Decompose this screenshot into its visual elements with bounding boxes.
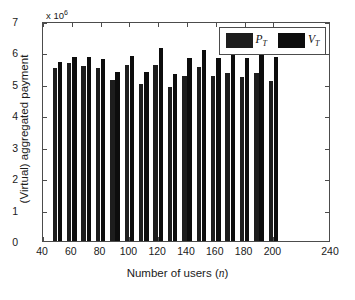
legend-entry-vt: VT <box>278 33 319 48</box>
bar-vt-n130 <box>173 74 177 242</box>
legend-label-vt: VT <box>308 33 319 48</box>
legend-entry-pt: PT <box>226 33 267 48</box>
y-axis-tick-mark <box>325 212 329 213</box>
bar-pt-n60 <box>67 63 71 241</box>
bar-pt-n160 <box>211 76 215 241</box>
x-axis-title-variable: n <box>219 267 225 279</box>
bar-vt-n80 <box>101 59 105 241</box>
x-axis-tick-mark <box>43 237 44 241</box>
bar-vt-n150 <box>202 50 206 241</box>
legend: PT VT <box>219 27 326 55</box>
y-axis-title: (Virtual) aggregated payment <box>18 19 30 239</box>
x-axis-title: Number of users (n) <box>0 267 355 279</box>
legend-label-vt-base: V <box>308 33 315 45</box>
legend-label-pt: PT <box>256 33 267 48</box>
y-axis-tick-label: 1 <box>12 206 18 217</box>
y-axis-tick-mark <box>43 212 47 213</box>
x-axis-title-text: Number of users <box>127 267 212 279</box>
y-axis-tick-mark <box>325 23 329 24</box>
y-axis-tick-label: 4 <box>12 111 18 122</box>
bar-vt-n100 <box>130 56 134 241</box>
y-axis-tick-label: 2 <box>12 174 18 185</box>
bar-vt-n50 <box>58 62 62 241</box>
bar-vt-n110 <box>144 72 148 241</box>
x-axis-tick-mark <box>72 23 73 27</box>
x-axis-tick-label: 200 <box>255 246 289 257</box>
bar-vt-n200 <box>274 57 278 241</box>
y-axis-tick-label: 3 <box>12 143 18 154</box>
bar-pt-n80 <box>96 68 100 241</box>
y-axis-tick-mark <box>325 180 329 181</box>
x-axis-tick-mark <box>101 23 102 27</box>
legend-label-pt-sub: T <box>263 40 267 49</box>
y-axis-tick-mark <box>43 180 47 181</box>
bar-vt-n120 <box>159 48 163 241</box>
bar-pt-n180 <box>240 77 244 241</box>
y-axis-tick-mark <box>325 149 329 150</box>
bar-pt-n190 <box>254 73 258 241</box>
bar-pt-n200 <box>269 81 273 241</box>
y-axis-tick-mark <box>325 86 329 87</box>
bar-pt-n170 <box>225 73 229 241</box>
legend-swatch-vt-icon <box>278 33 305 48</box>
bar-vt-n160 <box>216 58 220 241</box>
x-axis-tick-label: 240 <box>313 246 347 257</box>
y-axis-tick-mark <box>43 149 47 150</box>
bar-vt-n140 <box>187 58 191 241</box>
y-axis-tick-mark <box>43 86 47 87</box>
bar-vt-n70 <box>87 57 91 241</box>
plot-area <box>42 22 330 242</box>
legend-label-vt-sub: T <box>315 40 319 49</box>
legend-label-pt-base: P <box>256 33 263 45</box>
bar-pt-n110 <box>139 84 143 241</box>
bar-pt-n150 <box>197 67 201 241</box>
legend-swatch-pt-icon <box>226 33 253 48</box>
y-axis-exponent-base: x 10 <box>46 10 64 21</box>
bar-vt-n180 <box>245 58 249 241</box>
bar-vt-n90 <box>115 72 119 241</box>
x-axis-tick-mark <box>158 23 159 27</box>
y-axis-tick-label: 6 <box>12 48 18 59</box>
y-axis-tick-label: 7 <box>12 17 18 28</box>
bar-pt-n140 <box>182 76 186 241</box>
x-axis-tick-mark <box>216 23 217 27</box>
bar-vt-n190 <box>259 52 263 241</box>
bar-pt-n130 <box>168 87 172 241</box>
bar-pt-n50 <box>53 68 57 241</box>
x-axis-tick-mark <box>129 23 130 27</box>
y-axis-exponent-power: 6 <box>64 9 68 16</box>
bar-pt-n90 <box>110 80 114 241</box>
x-axis-tick-mark <box>187 23 188 27</box>
bar-pt-n100 <box>125 65 129 241</box>
x-axis-tick-mark <box>43 23 44 27</box>
y-axis-tick-label: 0 <box>12 237 18 248</box>
bar-pt-n70 <box>81 66 85 241</box>
y-axis-tick-label: 5 <box>12 80 18 91</box>
y-axis-exponent: x 106 <box>46 9 68 21</box>
y-axis-tick-mark <box>43 54 47 55</box>
bar-vt-n60 <box>72 57 76 241</box>
y-axis-tick-mark <box>325 117 329 118</box>
plot-inner <box>43 23 329 241</box>
figure-canvas: x 106 (Virtual) aggregated payment Numbe… <box>0 0 355 300</box>
y-axis-tick-mark <box>43 117 47 118</box>
bar-pt-n120 <box>153 65 157 241</box>
bar-vt-n170 <box>231 55 235 241</box>
